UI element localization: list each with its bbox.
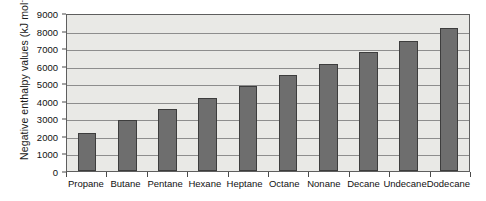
bar-slot: [268, 15, 308, 171]
plot-area: [66, 14, 470, 172]
x-tick-mark: [389, 172, 390, 177]
x-tick-label: Dodecane: [427, 178, 470, 189]
x-axis-labels: PropaneButanePentaneHexaneHeptaneOctaneN…: [66, 178, 470, 189]
bar-slot: [67, 15, 107, 171]
bar-chart: Negative enthalpy values (kJ mol-1) 0100…: [0, 0, 486, 201]
x-tick-mark: [147, 172, 148, 177]
bar: [198, 98, 216, 171]
bar: [158, 109, 176, 171]
y-tick-label: 0: [28, 167, 58, 178]
bar-slot: [348, 15, 388, 171]
bar-slot: [308, 15, 348, 171]
x-tick-mark: [268, 172, 269, 177]
bar: [239, 86, 257, 171]
x-tick-mark: [228, 172, 229, 177]
x-tick-mark: [308, 172, 309, 177]
bar: [279, 75, 297, 171]
x-axis: PropaneButanePentaneHexaneHeptaneOctaneN…: [66, 172, 470, 201]
bar: [399, 41, 417, 171]
y-tick-label: 1000: [28, 149, 58, 160]
y-tick-label: 5000: [28, 79, 58, 90]
y-axis-title-superscript: -1: [17, 0, 26, 3]
x-tick-label: Pentane: [145, 178, 185, 189]
x-tick-mark: [66, 172, 67, 177]
y-tick-label: 8000: [28, 26, 58, 37]
x-tick-mark: [470, 172, 471, 177]
x-tick-mark: [187, 172, 188, 177]
x-tick-label: Octane: [264, 178, 304, 189]
bar: [319, 64, 337, 171]
x-tick-mark: [430, 172, 431, 177]
x-tick-label: Nonane: [304, 178, 344, 189]
bar-slot: [188, 15, 228, 171]
bar-slot: [389, 15, 429, 171]
bar: [78, 133, 96, 171]
x-tick-label: Undecane: [383, 178, 426, 189]
y-tick-label: 7000: [28, 44, 58, 55]
y-tick-label: 4000: [28, 96, 58, 107]
x-tick-mark: [106, 172, 107, 177]
bar-slot: [147, 15, 187, 171]
bars-layer: [67, 15, 469, 171]
y-tick-label: 9000: [28, 9, 58, 20]
x-tick-label: Hexane: [185, 178, 225, 189]
bar-slot: [228, 15, 268, 171]
x-tick-mark: [349, 172, 350, 177]
bar: [359, 52, 377, 171]
x-tick-label: Propane: [66, 178, 106, 189]
x-tick-label: Butane: [106, 178, 146, 189]
bar: [440, 28, 458, 171]
bar: [118, 120, 136, 171]
y-axis-ticks: 0100020003000400050006000700080009000: [30, 0, 62, 201]
bar-slot: [107, 15, 147, 171]
bar-slot: [429, 15, 469, 171]
y-tick-label: 6000: [28, 61, 58, 72]
y-tick-label: 3000: [28, 114, 58, 125]
y-tick-label: 2000: [28, 131, 58, 142]
x-tick-label: Heptane: [225, 178, 265, 189]
x-tick-label: Decane: [344, 178, 384, 189]
